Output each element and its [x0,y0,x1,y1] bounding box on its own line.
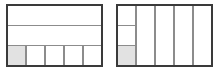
fraction-models-diagram [0,0,222,83]
right-model-shaded-cell [117,46,136,66]
left-model [7,5,102,66]
figure-canvas [0,0,222,83]
left-model-shaded-cell [7,46,26,66]
right-model [117,5,212,66]
